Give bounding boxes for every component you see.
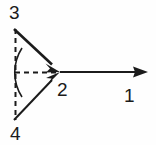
vector-label-3: 3 bbox=[9, 3, 20, 22]
vector-label-2: 2 bbox=[57, 80, 68, 99]
vector-diagram-svg bbox=[0, 0, 156, 145]
vector-label-1: 1 bbox=[124, 86, 135, 105]
vector-1-ray bbox=[60, 67, 148, 78]
vector-diagram-canvas: 3 4 2 1 bbox=[0, 0, 156, 145]
vector-label-4: 4 bbox=[10, 124, 21, 143]
vector-1-arrowhead bbox=[133, 67, 148, 78]
vector-4-shaft bbox=[14, 80, 52, 120]
vector-3-shaft bbox=[14, 29, 52, 65]
vector-3-arrowhead bbox=[46, 64, 61, 73]
